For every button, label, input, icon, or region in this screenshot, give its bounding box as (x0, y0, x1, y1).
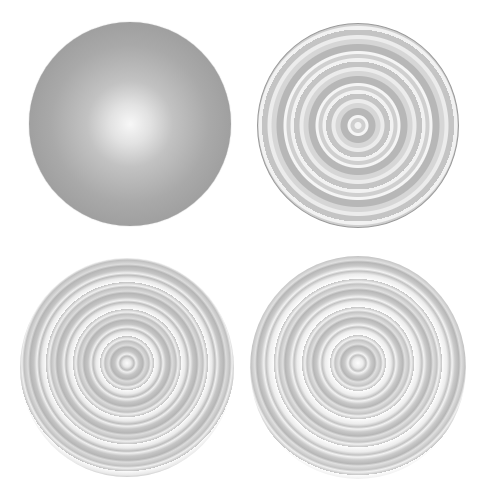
swirl-rings-disc-right (250, 256, 466, 479)
radial-gradient-disc (29, 22, 231, 226)
concentric-rings-disc (257, 23, 459, 228)
swirl-rings-disc-left (20, 258, 234, 477)
